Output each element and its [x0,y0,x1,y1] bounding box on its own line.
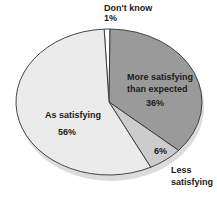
label-as-pct: 56% [58,127,76,138]
label-less-pct: 6% [154,146,167,157]
label-as-satisfying: As satisfying [45,110,101,121]
label-less: Less [171,165,192,176]
label-more-satisfying: More satisfying [127,72,193,83]
label-than-expected: than expected [127,84,188,95]
pie-slices [16,29,202,175]
label-more-pct: 36% [146,98,164,109]
label-dont-know-pct: 1% [104,13,117,24]
label-satisfying: satisfying [171,177,213,188]
